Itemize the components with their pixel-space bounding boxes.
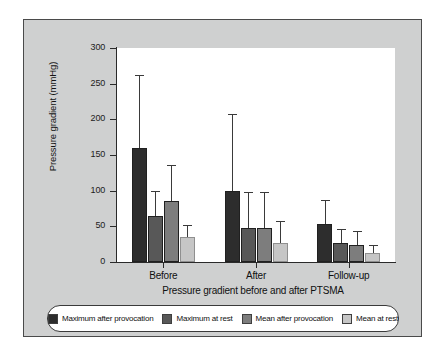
x-group-label: After bbox=[211, 270, 301, 281]
error-bar-cap bbox=[151, 191, 160, 192]
legend-item[interactable]: Maximum at rest bbox=[162, 314, 232, 324]
y-tick-mark bbox=[110, 191, 116, 192]
error-bar-cap bbox=[228, 114, 237, 115]
bar bbox=[180, 237, 195, 262]
x-tick-mark bbox=[163, 262, 164, 268]
y-tick-label: 100 bbox=[75, 185, 105, 195]
y-tick-mark bbox=[110, 262, 116, 263]
x-tick-mark bbox=[256, 262, 257, 268]
bar bbox=[132, 148, 147, 262]
bar bbox=[148, 216, 163, 262]
error-bar bbox=[325, 200, 326, 224]
error-bar-cap bbox=[260, 192, 269, 193]
error-bar-cap bbox=[353, 231, 362, 232]
y-tick-label: 0 bbox=[75, 256, 105, 266]
legend-item[interactable]: Maximum after provocation bbox=[48, 314, 153, 324]
bar bbox=[349, 245, 364, 262]
x-axis-title: Pressure gradient before and after PTSMA bbox=[83, 285, 423, 296]
error-bar-cap bbox=[276, 221, 285, 222]
error-bar bbox=[187, 225, 188, 237]
error-bar-cap bbox=[167, 165, 176, 166]
x-group-label: Before bbox=[118, 270, 208, 281]
y-axis-label: Pressure gradient (mmHg) bbox=[47, 42, 58, 192]
bar bbox=[257, 228, 272, 262]
error-bar-cap bbox=[337, 229, 346, 230]
bar bbox=[333, 243, 348, 262]
y-tick-mark bbox=[110, 48, 116, 49]
legend-label: Maximum at rest bbox=[176, 314, 232, 323]
error-bar bbox=[139, 75, 140, 148]
y-tick-label: 150 bbox=[75, 149, 105, 159]
x-tick-mark bbox=[349, 262, 350, 268]
legend-swatch-icon bbox=[242, 314, 252, 324]
legend-swatch-icon bbox=[48, 314, 58, 324]
chart-area: 050100150200250300 Pressure gradient (mm… bbox=[23, 19, 422, 289]
y-axis-line bbox=[116, 47, 117, 263]
error-bar bbox=[357, 231, 358, 245]
bar bbox=[317, 224, 332, 262]
error-bar bbox=[264, 192, 265, 228]
error-bar bbox=[373, 245, 374, 253]
error-bar-cap bbox=[244, 192, 253, 193]
y-tick-mark bbox=[110, 155, 116, 156]
figure-root: 050100150200250300 Pressure gradient (mm… bbox=[0, 0, 445, 355]
bar bbox=[365, 253, 380, 262]
y-tick-label: 200 bbox=[75, 113, 105, 123]
error-bar bbox=[171, 165, 172, 201]
y-tick-label: 300 bbox=[75, 42, 105, 52]
y-tick-mark bbox=[110, 226, 116, 227]
error-bar-cap bbox=[135, 75, 144, 76]
legend-label: Maximum after provocation bbox=[62, 314, 153, 323]
bar bbox=[164, 201, 179, 262]
error-bar-cap bbox=[183, 225, 192, 226]
error-bar bbox=[232, 114, 233, 191]
y-tick-label: 250 bbox=[75, 78, 105, 88]
chart-legend: Maximum after provocationMaximum at rest… bbox=[47, 305, 399, 332]
bar bbox=[241, 228, 256, 262]
y-tick-mark bbox=[110, 119, 116, 120]
legend-label: Mean after provocation bbox=[256, 314, 333, 323]
error-bar-cap bbox=[369, 245, 378, 246]
error-bar bbox=[155, 191, 156, 216]
legend-item[interactable]: Mean at rest bbox=[342, 314, 398, 324]
legend-swatch-icon bbox=[342, 314, 352, 324]
error-bar bbox=[248, 192, 249, 228]
bar bbox=[273, 243, 288, 262]
y-tick-label: 50 bbox=[75, 220, 105, 230]
error-bar bbox=[280, 221, 281, 243]
y-tick-mark bbox=[110, 84, 116, 85]
legend-item[interactable]: Mean after provocation bbox=[242, 314, 333, 324]
x-group-label: Follow-up bbox=[304, 270, 394, 281]
error-bar bbox=[341, 229, 342, 243]
error-bar-cap bbox=[321, 200, 330, 201]
bar bbox=[225, 191, 240, 262]
legend-label: Mean at rest bbox=[356, 314, 398, 323]
legend-swatch-icon bbox=[162, 314, 172, 324]
